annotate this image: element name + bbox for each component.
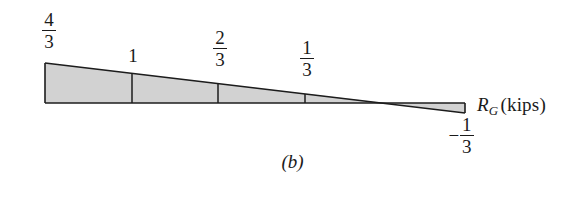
fraction-two-thirds: 2 3 <box>213 28 227 69</box>
value-one: 1 <box>128 45 138 66</box>
fraction-denominator: 3 <box>300 59 314 79</box>
fraction-denominator: 3 <box>213 49 227 69</box>
axis-label-reaction: RG(kips) <box>477 95 546 117</box>
fraction-numerator: 2 <box>213 28 227 49</box>
axis-variable-subscript: G <box>489 103 501 118</box>
ordinate-label-station-3: 1 3 <box>294 38 320 79</box>
axis-units: (kips) <box>500 94 546 115</box>
fraction-numerator: 1 <box>460 115 474 136</box>
minus-sign: − <box>448 126 459 145</box>
fraction-one-third: 1 3 <box>460 115 474 156</box>
fraction-four-thirds: 4 3 <box>42 10 56 51</box>
fraction-one-third: 1 3 <box>300 38 314 79</box>
fraction-numerator: 4 <box>42 10 56 31</box>
ordinate-label-station-2: 2 3 <box>207 28 233 69</box>
fraction-denominator: 3 <box>42 31 56 51</box>
ordinate-label-peak: 4 3 <box>36 10 62 51</box>
axis-variable-symbol: R <box>477 94 489 115</box>
signed-fraction-negative-one-third: − 1 3 <box>448 115 473 156</box>
ordinate-label-end-negative: − 1 3 <box>440 115 482 156</box>
ordinate-label-station-1: 1 <box>122 46 144 65</box>
figure-caption: (b) <box>0 152 585 171</box>
fraction-numerator: 1 <box>300 38 314 59</box>
influence-line-figure: 4 3 1 2 3 1 3 − 1 3 RG(kips) (b) <box>0 0 585 197</box>
